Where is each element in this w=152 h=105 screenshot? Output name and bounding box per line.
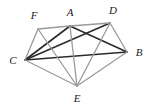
vertex-label-D: D	[109, 5, 117, 16]
vertex-label-B: B	[136, 47, 143, 58]
edge-F-A	[38, 26, 70, 29]
vertex-label-C: C	[9, 55, 16, 66]
edge-C-E	[25, 60, 77, 86]
vertex-label-E: E	[74, 93, 81, 104]
vertex-label-F: F	[31, 10, 38, 21]
graph-canvas	[0, 0, 152, 105]
edge-A-B	[70, 26, 127, 52]
graph-figure: FADCBE	[0, 0, 152, 105]
edge-layer	[25, 23, 127, 86]
vertex-label-A: A	[67, 7, 74, 18]
edge-E-B	[77, 52, 127, 86]
